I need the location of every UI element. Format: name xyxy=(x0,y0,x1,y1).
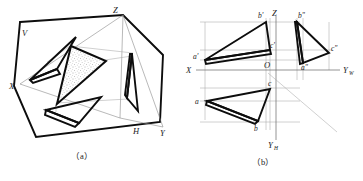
triangle-w-projection-edge xyxy=(125,54,132,98)
label-h-plane: H xyxy=(132,126,140,136)
label-axis-origin: O xyxy=(264,60,270,70)
label-v-plane: V xyxy=(22,28,29,38)
label-z-axis: Z xyxy=(113,5,118,15)
label-point-c: c xyxy=(268,79,272,88)
descriptive-geometry-figure: V Z X H Y （a） xyxy=(0,0,363,181)
label-axis-yw-subscript: W xyxy=(349,70,354,76)
label-point-c-dprime: c" xyxy=(331,44,338,53)
construction-line-4 xyxy=(105,56,132,60)
label-point-b: b xyxy=(254,124,258,133)
miter-line-45 xyxy=(268,73,337,132)
triangle-side-view-edge xyxy=(295,22,303,64)
fold-line-oz xyxy=(120,15,123,118)
label-point-b-prime: b' xyxy=(258,11,264,20)
triangle-h-projection-edge xyxy=(45,110,79,127)
triangle-front-view-edge xyxy=(205,50,271,64)
triangle-top-view-edge xyxy=(206,101,258,124)
label-point-b-dprime: b" xyxy=(298,11,306,20)
caption-panel-a: （a） xyxy=(71,151,93,161)
figure-root: V Z X H Y （a） xyxy=(0,0,363,181)
label-y-axis: Y xyxy=(160,128,166,138)
label-axis-z: Z xyxy=(272,8,277,18)
panel-b-group: a' b' c' a b c b" c" a" X Z O Y W Y H （b… xyxy=(185,8,354,167)
triangle-true-shape xyxy=(57,46,106,104)
label-axis-yh-subscript: H xyxy=(273,145,279,151)
label-point-c-prime: c' xyxy=(270,41,275,50)
label-axis-yw-group: Y W xyxy=(343,65,354,76)
label-point-a-prime: a' xyxy=(193,52,199,61)
fold-line-oy xyxy=(123,15,163,127)
caption-panel-b: （b） xyxy=(252,157,274,167)
label-point-a: a xyxy=(195,97,199,106)
panel-a-group: V Z X H Y （a） xyxy=(8,5,166,161)
label-point-a-dprime: a" xyxy=(301,63,309,72)
label-x-axis: X xyxy=(8,81,15,91)
label-axis-yh-group: Y H xyxy=(268,140,279,151)
label-axis-x: X xyxy=(185,65,192,75)
